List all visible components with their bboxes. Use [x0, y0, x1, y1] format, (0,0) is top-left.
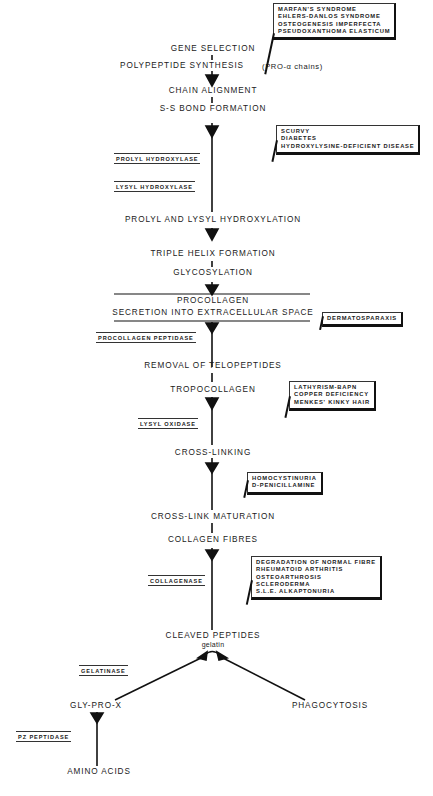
step-chain-alignment: CHAIN ALIGNMENT — [169, 86, 258, 95]
step-gly-pro-x: GLY-PRO-X — [70, 701, 122, 710]
disorder-item: DIABETES — [281, 135, 414, 142]
disorder-item: OSTEOARTHROSIS — [256, 574, 376, 581]
step-polypeptide-synthesis: POLYPEPTIDE SYNTHESIS — [120, 61, 244, 70]
step-cleaved-peptides: CLEAVED PEPTIDES — [166, 631, 261, 640]
step-tropocollagen: TROPOCOLLAGEN — [170, 385, 255, 394]
disorder-item: MENKES' KINKY HAIR — [294, 399, 370, 406]
disorder-box-maturation: HOMOCYSTINURIA D-PENICILLAMINE — [247, 472, 323, 495]
enzyme-gelatinase: GELATINASE — [79, 665, 128, 676]
disorder-box-peptidase: DERMATOSPARAXIS — [322, 312, 403, 327]
disorder-item: DEGRADATION OF NORMAL FIBRE — [256, 559, 376, 566]
step-gelatin-label: gelatin — [202, 641, 225, 648]
step-triple-helix-formation: TRIPLE HELIX FORMATION — [150, 249, 275, 258]
step-collagen-fibres: COLLAGEN FIBRES — [168, 535, 258, 544]
step-procollagen: PROCOLLAGEN — [177, 296, 249, 305]
enzyme-collagenase: COLLAGENASE — [148, 575, 205, 586]
step-ss-bond-formation: S-S BOND FORMATION — [160, 104, 267, 113]
disorder-box-gene: MARFAN'S SYNDROME EHLERS-DANLOS SYNDROME… — [273, 3, 396, 40]
disorder-item: EHLERS-DANLOS SYNDROME — [278, 13, 390, 20]
disorder-item: HOMOCYSTINURIA — [252, 475, 317, 482]
disorder-item: RHEUMATOID ARTHRITIS — [256, 566, 376, 573]
step-gene-selection: GENE SELECTION — [171, 44, 256, 53]
enzyme-pz-peptidase: PZ PEPTIDASE — [16, 731, 71, 742]
step-cross-linking: CROSS-LINKING — [175, 448, 251, 457]
disorder-item: DERMATOSPARAXIS — [327, 315, 397, 322]
step-glycosylation: GLYCOSYLATION — [173, 268, 253, 277]
step-secretion: SECRETION INTO EXTRACELLULAR SPACE — [112, 308, 313, 317]
disorder-box-hydroxylation: SCURVY DIABETES HYDROXYLYSINE-DEFICIENT … — [276, 125, 420, 155]
disorder-item: D-PENICILLAMINE — [252, 482, 317, 489]
enzyme-lysyl-oxidase: LYSYL OXIDASE — [138, 418, 198, 429]
disorder-item: HYDROXYLYSINE-DEFICIENT DISEASE — [281, 143, 414, 150]
disorder-item: LATHYRISM-BAPN — [294, 384, 370, 391]
disorder-item: PSEUDOXANTHOMA ELASTICUM — [278, 28, 390, 35]
step-polypeptide-note: (PRO-α chains) — [262, 62, 323, 71]
enzyme-prolyl-hydroxylase: PROLYL HYDROXYLASE — [114, 153, 200, 164]
step-cross-link-maturation: CROSS-LINK MATURATION — [151, 512, 275, 521]
disorder-item: SCURVY — [281, 128, 414, 135]
step-phagocytosis: PHAGOCYTOSIS — [292, 701, 368, 710]
enzyme-procollagen-peptidase: PROCOLLAGEN PEPTIDASE — [96, 332, 196, 343]
disorder-item: OSTEOGENESIS IMPERFECTA — [278, 21, 390, 28]
enzyme-lysyl-hydroxylase: LYSYL HYDROXYLASE — [114, 181, 195, 192]
disorder-item: MARFAN'S SYNDROME — [278, 6, 390, 13]
step-removal-of-telopeptides: REMOVAL OF TELOPEPTIDES — [144, 361, 281, 370]
disorder-box-degradation: DEGRADATION OF NORMAL FIBRE RHEUMATOID A… — [251, 556, 382, 600]
step-amino-acids: AMINO ACIDS — [67, 767, 131, 776]
disorder-item: COPPER DEFICIENCY — [294, 391, 370, 398]
disorder-item: SCLERODERMA — [256, 581, 376, 588]
disorder-box-crosslink: LATHYRISM-BAPN COPPER DEFICIENCY MENKES'… — [289, 381, 376, 411]
step-prolyl-lysyl-hydroxylation: PROLYL AND LYSYL HYDROXYLATION — [125, 215, 301, 224]
disorder-item: S.L.E. ALKAPTONURIA — [256, 588, 376, 595]
